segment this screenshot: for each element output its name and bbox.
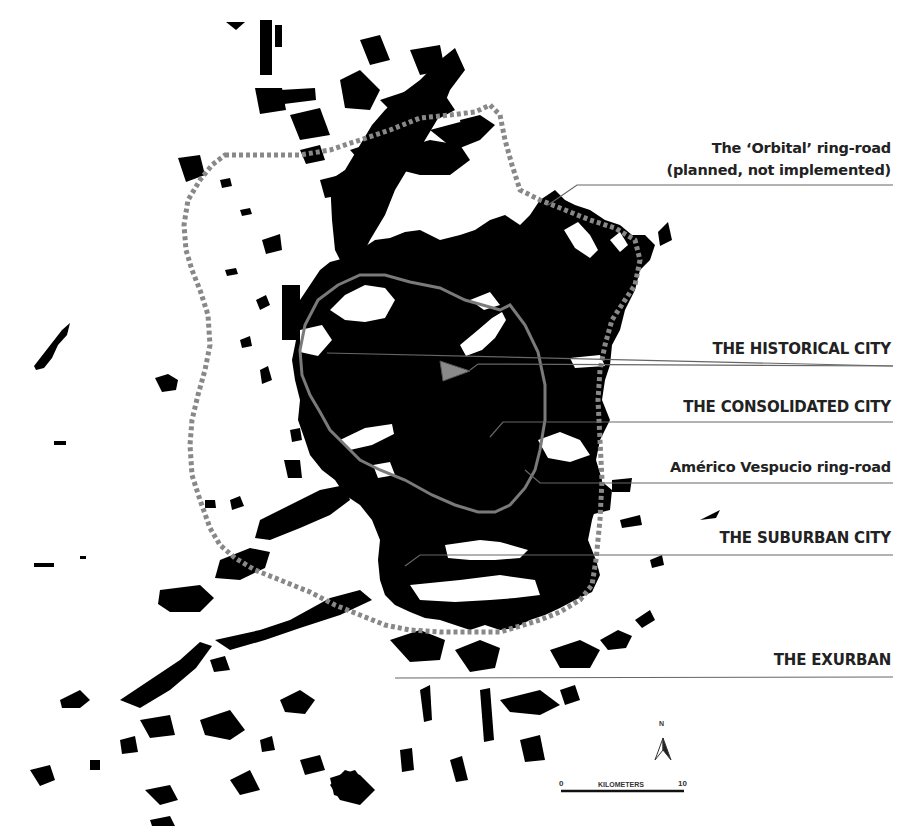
leader-orbital <box>548 185 893 205</box>
label-exurban: THE EXURBAN <box>774 651 891 669</box>
label-historical-city: THE HISTORICAL CITY <box>712 340 891 358</box>
scale-start: 0 <box>559 779 563 788</box>
scale-end: 10 <box>678 779 687 788</box>
label-orbital-ring-road: The ‘Orbital’ ring-road (planned, not im… <box>666 137 891 181</box>
label-orbital-line2: (planned, not implemented) <box>666 159 891 181</box>
leader-exurban <box>395 677 893 678</box>
label-vespucio-ring-road: Américo Vespucio ring-road <box>670 456 891 478</box>
label-orbital-line1: The ‘Orbital’ ring-road <box>666 137 891 159</box>
north-label: N <box>659 720 664 727</box>
label-consolidated-city: THE CONSOLIDATED CITY <box>683 398 891 416</box>
label-suburban-city: THE SUBURBAN CITY <box>719 529 891 547</box>
scale-unit: KILOMETERS <box>598 781 644 788</box>
north-arrow-icon <box>655 738 671 760</box>
